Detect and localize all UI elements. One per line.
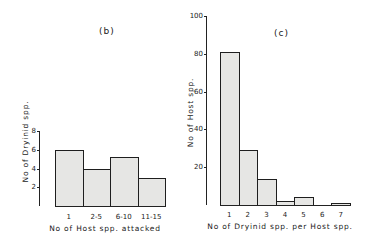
- bar: [239, 150, 259, 206]
- x-tick-label: 7: [327, 211, 354, 219]
- chart-c-title: (c): [274, 28, 289, 38]
- y-tick: [204, 129, 207, 130]
- y-axis-line: [206, 16, 207, 205]
- chart-c: (c) No of Host spp. No of Dryinid spp. p…: [0, 0, 367, 242]
- x-baseline: [220, 205, 351, 206]
- y-tick-label: 100: [187, 13, 203, 20]
- y-tick-label: 20: [187, 164, 203, 171]
- y-tick-label: 80: [187, 51, 203, 58]
- y-tick-label: 60: [187, 89, 203, 96]
- bar: [257, 179, 277, 206]
- bar: [220, 52, 240, 206]
- y-tick: [204, 92, 207, 93]
- y-tick: [204, 54, 207, 55]
- y-tick: [204, 16, 207, 17]
- y-tick-label: 40: [187, 126, 203, 133]
- chart-c-ylabel: No of Host spp.: [186, 73, 195, 153]
- y-tick: [204, 167, 207, 168]
- chart-c-xlabel: No of Dryinid spp. per Host spp.: [200, 222, 360, 231]
